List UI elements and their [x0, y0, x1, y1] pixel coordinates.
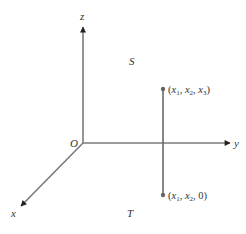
- point-bottom-label: (x1, x2, 0): [168, 190, 208, 203]
- point-top: [161, 87, 165, 91]
- region-s-label: S: [129, 55, 135, 67]
- x-axis-label: x: [10, 207, 16, 219]
- origin-label: O: [70, 137, 78, 149]
- point-top-label: (x1, x2, x3): [168, 84, 211, 97]
- x-axis: [21, 143, 83, 206]
- coordinate-diagram: z y x O S T (x1, x2, x3) (x1, x2, 0): [0, 0, 246, 234]
- point-bottom: [161, 193, 165, 197]
- y-axis-label: y: [233, 137, 239, 149]
- region-t-label: T: [127, 207, 134, 219]
- z-axis-label: z: [79, 10, 85, 22]
